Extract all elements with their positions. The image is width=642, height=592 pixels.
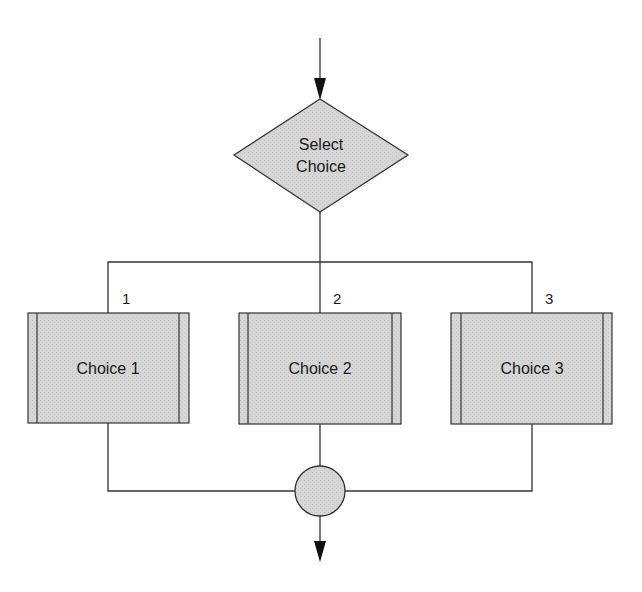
choice-3-label: Choice 3	[500, 360, 563, 377]
decision-label-line1: Select	[299, 136, 344, 153]
case-structure-flowchart: Select Choice 1 2 3 Choice 1 Choice 2 Ch…	[0, 0, 642, 592]
branch-number-2: 2	[333, 290, 341, 307]
branch-number-1: 1	[122, 290, 130, 307]
process-box-choice-2: Choice 2	[239, 313, 401, 424]
decision-diamond: Select Choice	[234, 99, 408, 212]
branch-lines	[108, 212, 532, 313]
process-box-choice-1: Choice 1	[28, 313, 189, 423]
process-box-choice-3: Choice 3	[451, 313, 612, 424]
entry-arrow	[314, 38, 326, 100]
decision-label-line2: Choice	[296, 158, 346, 175]
exit-arrow	[314, 516, 326, 562]
choice-1-label: Choice 1	[76, 360, 139, 377]
branch-number-3: 3	[545, 290, 553, 307]
merge-connector-circle	[295, 466, 345, 516]
choice-2-label: Choice 2	[288, 360, 351, 377]
